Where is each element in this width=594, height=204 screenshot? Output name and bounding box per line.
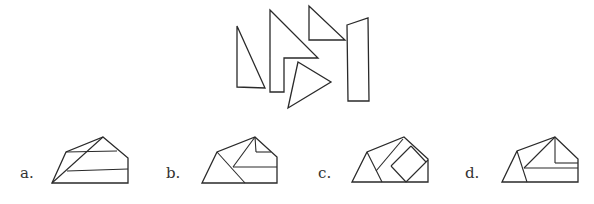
piece-small-right-triangle (309, 6, 345, 40)
division-line (376, 139, 403, 171)
puzzle-canvas (0, 0, 594, 204)
option-figure-c (352, 137, 428, 182)
figure-outline (352, 137, 428, 182)
division-line (52, 137, 103, 183)
piece-long-rectangle (347, 18, 369, 101)
piece-tilted-triangle (288, 62, 331, 108)
option-label-d: d. (465, 164, 479, 182)
option-figure-d (502, 137, 578, 182)
option-figure-b (202, 137, 277, 183)
division-line (524, 137, 555, 168)
option-label-b: b. (166, 164, 180, 182)
option-figure-a (52, 137, 128, 183)
option-label-c: c. (318, 164, 331, 182)
figure-outline (502, 137, 578, 182)
division-line (255, 137, 256, 152)
division-line (406, 160, 428, 182)
division-line (411, 146, 426, 162)
division-line (391, 166, 406, 182)
division-line (67, 169, 128, 171)
option-label-a: a. (20, 164, 34, 182)
piece-tall-right-triangle (237, 26, 265, 88)
figure-outline (52, 137, 128, 183)
division-line (66, 151, 117, 152)
